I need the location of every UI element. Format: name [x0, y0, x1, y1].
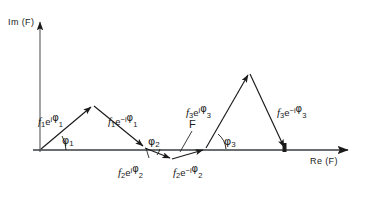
f1-up-phi-sub: 1: [59, 120, 63, 129]
resultant-label: F: [189, 119, 196, 130]
f1-up-phi: φ: [52, 112, 59, 123]
resultant-endpoint-marker: [283, 143, 287, 152]
phi2-sub: 2: [155, 140, 159, 149]
f3-down-phi-sub: 3: [302, 111, 306, 120]
resultant-leader-line: [180, 131, 192, 152]
f2-down-phi-sub: 2: [198, 171, 202, 180]
vector-label-f1-down: f1e−iφ1: [108, 113, 137, 128]
vector-label-f1-up: f1eiφ1: [38, 113, 63, 128]
f3-up-phi-sub: 3: [207, 111, 211, 120]
phi3-sub: 3: [231, 140, 235, 149]
vector-f2-down: [172, 150, 203, 159]
f1-down-phi-sub: 1: [133, 120, 137, 129]
angle-label-phi3: φ3: [224, 136, 236, 149]
f2-up-phi-sub: 2: [139, 171, 143, 180]
angle-label-phi1: φ1: [62, 135, 74, 148]
angle-label-phi2: φ2: [148, 136, 160, 149]
f3-up-phi: φ: [200, 103, 207, 114]
vector-label-f2-down: f2e−iφ2: [173, 164, 202, 179]
vector-label-f2-up: f2eiφ2: [118, 164, 143, 179]
complex-plane-vector-diagram: Im (F) Re (F) f1eiφ1 f1e−iφ1 f2eiφ2 f2e−…: [0, 0, 365, 197]
real-axis-label: Re (F): [310, 157, 338, 166]
vector-label-f3-down: f3e−iφ3: [277, 104, 306, 119]
f2-up-phi: φ: [132, 163, 139, 174]
imaginary-axis-label: Im (F): [8, 18, 34, 27]
phi1-sub: 1: [69, 139, 73, 148]
